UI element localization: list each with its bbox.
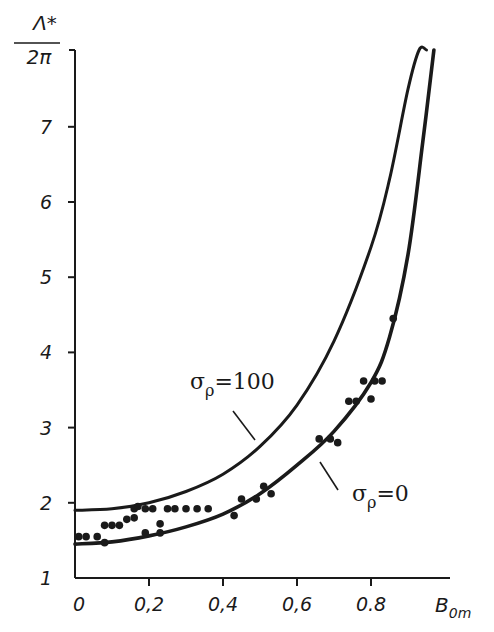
data-point xyxy=(156,529,164,537)
data-point xyxy=(315,435,323,443)
data-point xyxy=(230,512,238,520)
data-point xyxy=(108,522,116,530)
data-point xyxy=(171,505,179,513)
data-point xyxy=(252,495,260,503)
data-point xyxy=(238,495,246,503)
data-point xyxy=(352,397,360,405)
x-tick-label: 0,2 xyxy=(134,593,164,615)
data-point xyxy=(75,533,83,541)
data-point xyxy=(142,505,150,513)
data-point xyxy=(327,435,335,443)
y-tick-label: 2 xyxy=(40,492,52,514)
data-point xyxy=(130,514,138,522)
curve-sigma-0 xyxy=(75,50,434,544)
y-axis-title-denominator: 2π xyxy=(27,45,53,69)
y-tick-label: 5 xyxy=(40,266,52,288)
data-point xyxy=(134,503,142,511)
data-point xyxy=(123,516,131,524)
x-tick-label: 0 xyxy=(73,593,85,615)
data-point xyxy=(93,533,101,541)
leader-line-sigma-100 xyxy=(233,411,255,440)
x-tick-label: 0.8 xyxy=(356,593,386,615)
x-axis-title: B0m xyxy=(435,593,471,621)
y-tick-label: 4 xyxy=(40,341,52,363)
data-point xyxy=(101,522,109,530)
data-point xyxy=(101,539,109,547)
data-point xyxy=(156,520,164,528)
data-point xyxy=(267,490,275,498)
data-point xyxy=(82,533,90,541)
data-point xyxy=(360,377,368,385)
x-tick-label: 0,4 xyxy=(208,593,238,615)
x-tick-label: 0,6 xyxy=(282,593,312,615)
y-tick-label: 6 xyxy=(40,191,52,213)
data-point xyxy=(334,439,342,447)
label-sigma-0: σρ=0 xyxy=(352,481,409,512)
label-sigma-100: σρ=100 xyxy=(190,369,275,400)
y-tick-label: 3 xyxy=(40,417,52,439)
data-point xyxy=(371,377,379,385)
data-point xyxy=(367,395,375,403)
data-point xyxy=(378,377,386,385)
data-point xyxy=(142,529,150,537)
data-point xyxy=(182,505,190,513)
chart: 123456700,20,40,60.8Λ*2πB0mσρ=100σρ=0 xyxy=(0,0,494,632)
curves xyxy=(75,47,434,544)
curve-sigma-100 xyxy=(75,47,427,510)
leader-line-sigma-0 xyxy=(320,462,338,490)
data-point xyxy=(204,505,212,513)
y-tick-label: 1 xyxy=(40,567,52,589)
data-point xyxy=(193,505,201,513)
data-point xyxy=(164,505,172,513)
data-point xyxy=(149,505,157,513)
y-axis-title-numerator: Λ* xyxy=(31,11,57,35)
data-point xyxy=(260,482,268,490)
data-point xyxy=(345,397,353,405)
data-points xyxy=(75,315,397,547)
labels: 123456700,20,40,60.8Λ*2πB0mσρ=100σρ=0 xyxy=(14,11,471,621)
data-point xyxy=(389,315,397,323)
data-point xyxy=(116,522,124,530)
y-tick-label: 7 xyxy=(40,116,52,138)
